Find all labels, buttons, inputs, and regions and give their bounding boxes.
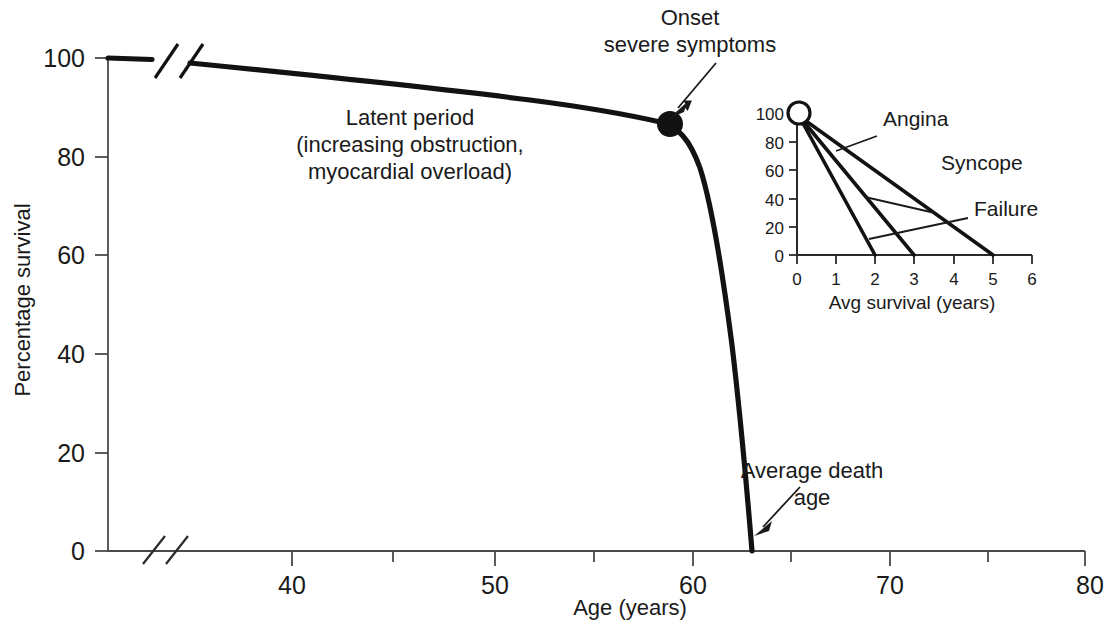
inset-y-tick-labels: 100 80 60 40 20 0 (756, 105, 784, 266)
y-tick-label-0: 0 (71, 537, 85, 565)
inset-x-label-1: 1 (831, 270, 840, 289)
x-axis-title: Age (years) (573, 595, 687, 620)
x-ticks-minor (393, 551, 988, 562)
latent-period-line-2: (increasing obstruction, (296, 132, 523, 157)
inset-y-label-0: 0 (775, 247, 784, 266)
latent-period-line-1: Latent period (346, 105, 474, 130)
y-tick-label-60: 60 (57, 241, 85, 269)
death-line-1: Average death (741, 458, 884, 483)
onset-arrow-icon (670, 63, 716, 118)
x-tick-label-70: 70 (876, 571, 904, 599)
onset-severe-symptoms-marker (657, 111, 683, 137)
inset-label-syncope: Syncope (941, 151, 1023, 174)
inset-label-failure: Failure (974, 197, 1038, 220)
inset-angina-leader (836, 136, 877, 151)
inset-x-label-5: 5 (988, 270, 997, 289)
onset-line-1: Onset (661, 5, 720, 30)
inset-y-label-100: 100 (756, 105, 784, 124)
x-axis-break-icon (143, 536, 188, 564)
inset-series-failure-line (799, 116, 875, 255)
latent-period-line-3: myocardial overload) (308, 159, 512, 184)
x-tick-label-80: 80 (1076, 571, 1104, 599)
inset-x-tick-labels: 0 1 2 3 4 5 6 (792, 270, 1036, 289)
y-tick-label-100: 100 (43, 44, 85, 72)
inset-y-label-20: 20 (765, 219, 784, 238)
inset-x-label-2: 2 (870, 270, 879, 289)
survival-curve-pre-break (108, 58, 152, 60)
inset-y-ticks (789, 113, 797, 255)
inset-x-label-3: 3 (909, 270, 918, 289)
y-tick-label-40: 40 (57, 340, 85, 368)
y-tick-label-80: 80 (57, 143, 85, 171)
annotation-average-death-age: Average death age (741, 458, 884, 536)
inset-chart: 100 80 60 40 20 0 0 1 2 (756, 102, 1039, 313)
inset-label-angina: Angina (883, 107, 949, 130)
inset-y-label-40: 40 (765, 191, 784, 210)
inset-x-label-0: 0 (792, 270, 801, 289)
inset-x-label-6: 6 (1027, 270, 1036, 289)
y-axis-title: Percentage survival (10, 203, 35, 396)
inset-y-label-60: 60 (765, 162, 784, 181)
x-tick-label-40: 40 (278, 571, 306, 599)
inset-x-axis-title: Avg survival (years) (829, 292, 995, 313)
death-arrow-icon (754, 487, 800, 536)
inset-origin-marker-icon (788, 102, 810, 124)
annotation-latent-period: Latent period (increasing obstruction, m… (296, 105, 523, 184)
y-ticks (95, 58, 108, 551)
y-tick-labels: 100 80 60 40 20 0 (43, 44, 85, 565)
x-tick-label-50: 50 (481, 571, 509, 599)
survival-chart-svg: 100 80 60 40 20 0 40 50 60 70 80 (0, 0, 1113, 627)
annotation-onset-severe-symptoms: Onset severe symptoms (604, 5, 776, 118)
x-ticks-major (292, 551, 890, 566)
y-tick-label-20: 20 (57, 439, 85, 467)
x-tick-labels: 40 50 60 70 80 (278, 571, 1104, 599)
figure-root: 100 80 60 40 20 0 40 50 60 70 80 (0, 0, 1113, 627)
inset-x-label-4: 4 (949, 270, 958, 289)
onset-line-2: severe symptoms (604, 32, 776, 57)
inset-y-label-80: 80 (765, 134, 784, 153)
